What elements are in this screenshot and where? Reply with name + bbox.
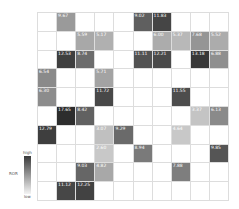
heatmap-cell: 6.54: [38, 69, 57, 88]
colorbar-high-label: high: [23, 150, 32, 155]
heatmap-cell: 5.37: [172, 32, 191, 51]
heatmap-cell: [95, 13, 114, 32]
cell-value: 11.11: [135, 51, 148, 57]
heatmap-cell: [191, 182, 210, 201]
heatmap-cell: [114, 51, 133, 70]
cell-value: 9.03: [77, 163, 87, 169]
heatmap-cell: [134, 32, 153, 51]
heatmap-cell: [134, 182, 153, 201]
heatmap-cell: [134, 107, 153, 126]
cell-value: 12.21: [154, 51, 167, 57]
cell-value: 2.60: [96, 145, 106, 151]
cell-value: 12.25: [77, 182, 90, 188]
heatmap-cell: 12.79: [38, 126, 57, 145]
heatmap-cell: 11.11: [134, 51, 153, 70]
heatmap-cell: [38, 107, 57, 126]
heatmap-cell: [38, 51, 57, 70]
cell-value: 12.53: [58, 51, 71, 57]
cell-value: 8.42: [77, 107, 87, 113]
heatmap-cell: [210, 69, 229, 88]
heatmap-cell: 12.25: [76, 182, 95, 201]
heatmap-cell: 4.64: [172, 126, 191, 145]
heatmap-cell: [57, 145, 76, 164]
heatmap-cell: [153, 182, 172, 201]
cell-value: 7.68: [192, 32, 202, 38]
heatmap-cell: 5.71: [95, 69, 114, 88]
cell-value: 8.74: [77, 51, 87, 57]
heatmap-cell: [191, 13, 210, 32]
heatmap-cell: [38, 163, 57, 182]
cell-value: 6.54: [39, 69, 49, 75]
cell-value: 11.83: [154, 13, 167, 19]
heatmap-cell: [114, 107, 133, 126]
heatmap-cell: [114, 88, 133, 107]
cell-value: 9.67: [58, 13, 68, 19]
heatmap-cell: [153, 107, 172, 126]
cell-value: 13.18: [192, 51, 205, 57]
heatmap-cell: [76, 69, 95, 88]
heatmap-cell: [57, 69, 76, 88]
heatmap-cell: [153, 88, 172, 107]
heatmap-cell: [191, 88, 210, 107]
cell-value: 4.64: [173, 126, 183, 132]
cell-value: 5.59: [77, 32, 87, 38]
heatmap-cell: [114, 32, 133, 51]
heatmap-cell: [57, 32, 76, 51]
heatmap-cell: 11.72: [95, 88, 114, 107]
cell-value: 11.72: [96, 88, 109, 94]
heatmap-cell: [172, 107, 191, 126]
heatmap-cell: [114, 163, 133, 182]
heatmap-cell: 17.65: [57, 107, 76, 126]
cell-value: 11.12: [58, 182, 71, 188]
heatmap-cell: [114, 13, 133, 32]
heatmap-cell: [191, 126, 210, 145]
heatmap-cell: [153, 126, 172, 145]
heatmap-cell: 8.94: [134, 145, 153, 164]
cell-value: 5.17: [96, 32, 106, 38]
heatmap-cell: 11.12: [57, 182, 76, 201]
heatmap-cell: [172, 69, 191, 88]
cell-value: 12.79: [39, 126, 52, 132]
heatmap-cell: [172, 51, 191, 70]
cell-value: 5.52: [211, 32, 221, 38]
heatmap-cell: [57, 163, 76, 182]
cell-value: 3.37: [192, 107, 202, 113]
colorbar-title: ROR: [9, 171, 18, 176]
heatmap-cell: [134, 126, 153, 145]
heatmap-cell: 5.52: [210, 32, 229, 51]
heatmap-cell: [57, 126, 76, 145]
heatmap-cell: [191, 145, 210, 164]
heatmap-cell: [95, 51, 114, 70]
heatmap-cell: 9.67: [57, 13, 76, 32]
heatmap-cell: [210, 88, 229, 107]
heatmap-cell: [153, 145, 172, 164]
heatmap-cell: 3.37: [191, 107, 210, 126]
heatmap-cell: [191, 69, 210, 88]
heatmap-cell: 2.60: [95, 145, 114, 164]
cell-value: 5.71: [96, 69, 106, 75]
heatmap-cell: 5.17: [95, 32, 114, 51]
heatmap-cell: 3.07: [95, 126, 114, 145]
heatmap-cell: 6.00: [153, 32, 172, 51]
heatmap-cell: [114, 182, 133, 201]
cell-value: 17.65: [58, 107, 71, 113]
heatmap-cell: [172, 182, 191, 201]
heatmap-cell: 13.18: [191, 51, 210, 70]
heatmap-cell: 6.30: [38, 88, 57, 107]
heatmap-cell: [210, 182, 229, 201]
heatmap-cell: [153, 69, 172, 88]
cell-value: 4.82: [96, 163, 106, 169]
heatmap-cell: [134, 88, 153, 107]
heatmap-cell: 7.68: [191, 32, 210, 51]
cell-value: 6.13: [211, 107, 221, 113]
cell-value: 7.88: [173, 163, 183, 169]
heatmap-cell: [114, 145, 133, 164]
cell-value: 5.37: [173, 32, 183, 38]
cell-value: 11.55: [173, 88, 186, 94]
cell-value: 6.30: [39, 88, 49, 94]
heatmap-cell: [76, 88, 95, 107]
cell-value: 9.02: [135, 13, 145, 19]
heatmap-cell: 9.85: [210, 145, 229, 164]
heatmap-cell: [191, 163, 210, 182]
heatmap-cell: [57, 88, 76, 107]
